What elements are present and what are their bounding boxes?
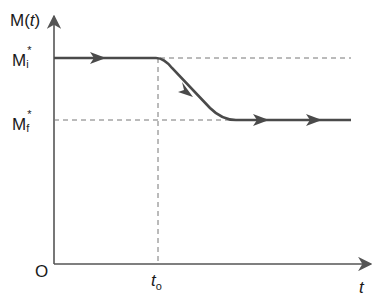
mf-label: Mf* <box>12 116 26 133</box>
t0-label: to <box>151 272 162 292</box>
y-axis-label: M(t) <box>10 12 40 29</box>
x-axis-label: t <box>359 279 364 296</box>
magnetization-plot <box>0 0 388 304</box>
mi-label: Mi* <box>12 52 26 69</box>
magnetization-curve <box>54 58 351 120</box>
origin-label: O <box>35 263 48 280</box>
